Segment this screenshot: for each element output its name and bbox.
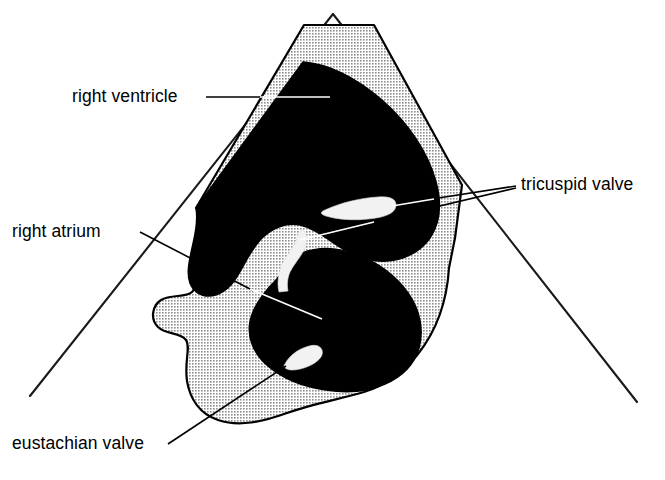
label-tricuspid-valve: tricuspid valve [521, 174, 633, 194]
label-right-atrium: right atrium [12, 221, 101, 241]
diagram-canvas: right ventricle right atrium tricuspid v… [0, 0, 665, 480]
echocardiogram-figure: right ventricle right atrium tricuspid v… [0, 0, 665, 480]
label-right-ventricle: right ventricle [72, 86, 178, 106]
label-eustachian-valve: eustachian valve [12, 433, 144, 453]
